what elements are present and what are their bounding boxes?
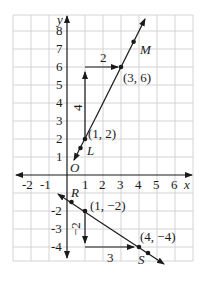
- coordinate-plane: y x O -2 -1 1 2 3 4 5 6 8 7 6 5 4 3 2 1 …: [0, 0, 206, 281]
- label-L: L: [86, 143, 94, 158]
- point-R: [69, 200, 74, 205]
- svg-text:1: 1: [82, 177, 89, 192]
- point-M: [131, 40, 136, 45]
- svg-text:5: 5: [153, 177, 160, 192]
- point-1-2: [83, 137, 88, 142]
- x-axis-label: x: [183, 177, 190, 192]
- svg-text:6: 6: [56, 59, 63, 74]
- coord-label-4-neg4: (4, −4): [140, 229, 176, 244]
- run-label-LM: 2: [100, 50, 107, 65]
- origin-label: O: [70, 160, 80, 175]
- coord-label-1-neg2: (1, −2): [90, 198, 126, 213]
- svg-text:7: 7: [56, 41, 63, 56]
- svg-text:2: 2: [56, 131, 63, 146]
- svg-text:3: 3: [56, 113, 63, 128]
- svg-text:-3: -3: [51, 221, 62, 236]
- svg-text:-1: -1: [40, 177, 51, 192]
- point-L: [78, 146, 83, 151]
- label-R: R: [70, 185, 79, 200]
- svg-text:6: 6: [171, 177, 178, 192]
- svg-text:3: 3: [117, 177, 124, 192]
- svg-text:5: 5: [56, 77, 63, 92]
- svg-text:4: 4: [135, 177, 142, 192]
- label-S: S: [138, 252, 145, 267]
- point-4-neg4: [137, 245, 142, 250]
- point-S: [146, 251, 151, 256]
- rise-label-RS: −2: [68, 222, 83, 236]
- svg-text:1: 1: [56, 149, 63, 164]
- rise-label-LM: 4: [70, 104, 85, 111]
- svg-text:2: 2: [99, 177, 106, 192]
- run-label-RS: 3: [107, 250, 114, 265]
- label-M: M: [139, 42, 152, 57]
- coord-label-1-2: (1, 2): [88, 126, 116, 141]
- point-3-6: [119, 65, 124, 70]
- coord-label-3-6: (3, 6): [123, 70, 151, 85]
- svg-text:-4: -4: [51, 239, 62, 254]
- point-1-neg2: [83, 209, 88, 214]
- svg-text:4: 4: [56, 95, 63, 110]
- svg-text:-2: -2: [22, 177, 33, 192]
- svg-text:-2: -2: [51, 203, 62, 218]
- svg-text:8: 8: [56, 23, 63, 38]
- x-tick-labels: -2 -1 1 2 3 4 5 6: [22, 177, 178, 192]
